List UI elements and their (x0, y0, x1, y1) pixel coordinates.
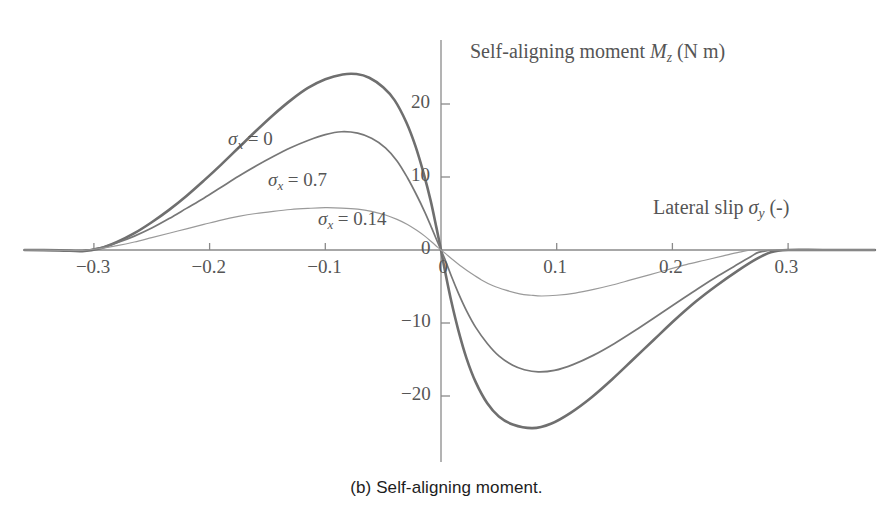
ann-sigma-0-value: = 0 (248, 128, 273, 149)
ann-sigma-0-symbol: σ (228, 128, 237, 149)
y-tick-label-3: 10 (411, 164, 430, 186)
x-axis-title: Lateral slip σy (-) (653, 196, 789, 222)
x-axis-symbol-subscript: y (758, 206, 764, 221)
chart-canvas (0, 0, 893, 480)
x-tick-label-3: 0 (439, 256, 449, 278)
y-axis-title-text: Self-aligning moment (470, 40, 645, 62)
ann-sigma-0-subscript: x (237, 137, 243, 152)
ann-sigma-07-subscript: x (277, 178, 283, 193)
y-tick-label-0: −20 (401, 383, 431, 405)
ann-sigma-0: σx = 0 (228, 128, 273, 153)
x-tick-label-2: −0.1 (307, 256, 341, 278)
y-tick-label-1: −10 (401, 310, 431, 332)
ann-sigma-014-subscript: x (327, 217, 333, 232)
y-axis-symbol-subscript: z (667, 50, 672, 65)
ann-sigma-014-value: = 0.14 (338, 208, 387, 229)
x-tick-label-6: 0.3 (775, 256, 799, 278)
figure-self-aligning-moment: Self-aligning moment Mz (N m) Lateral sl… (0, 0, 893, 527)
ann-sigma-07-symbol: σ (268, 169, 277, 190)
x-axis-symbol: σ (749, 196, 759, 218)
ann-sigma-07: σx = 0.7 (268, 169, 327, 194)
x-tick-label-5: 0.2 (659, 256, 683, 278)
x-axis-title-text: Lateral slip (653, 196, 744, 218)
y-axis-symbol: M (650, 40, 667, 62)
figure-caption: (b) Self-aligning moment. (0, 478, 893, 498)
ann-sigma-07-value: = 0.7 (288, 169, 327, 190)
y-tick-label-2: 0 (421, 237, 431, 259)
y-axis-title: Self-aligning moment Mz (N m) (470, 40, 725, 66)
y-tick-label-4: 20 (411, 91, 430, 113)
y-axis-unit: (N m) (677, 40, 725, 62)
x-axis-unit: (-) (769, 196, 789, 218)
series-curve-1 (24, 132, 874, 372)
x-tick-label-0: −0.3 (76, 256, 110, 278)
ann-sigma-014: σx = 0.14 (318, 208, 387, 233)
data-series-group (24, 74, 874, 428)
x-tick-label-1: −0.2 (192, 256, 226, 278)
x-tick-label-4: 0.1 (543, 256, 567, 278)
ann-sigma-014-symbol: σ (318, 208, 327, 229)
